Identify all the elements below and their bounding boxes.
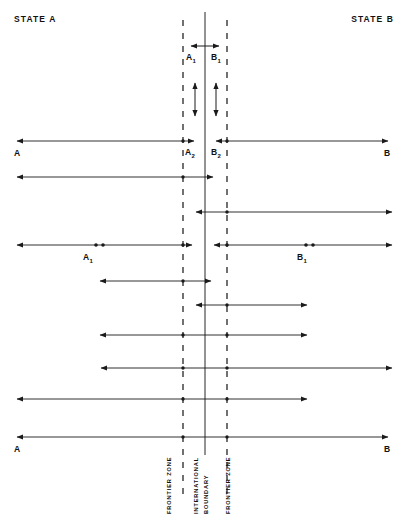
b1-top-label: B1 [211,52,221,64]
b1-row-subscript: 1 [303,258,306,264]
b2-label: B2 [211,147,221,159]
vertical-guide-group [183,12,227,500]
a-endpoint-label-upper: A [14,148,20,158]
a2-label: A2 [185,147,195,159]
a1-row-subscript: 1 [89,258,92,264]
b1-row-label: B1 [297,252,307,264]
b2-subscript: 2 [217,153,220,159]
boundary-label: BOUNDARY [203,475,209,514]
a1-row-label: A1 [83,252,93,264]
state-a-label: STATE A [14,14,56,24]
diagram-canvas [0,0,412,520]
international-label: INTERNATIONAL [193,457,199,514]
a-endpoint-label-lower: A [14,444,20,454]
a1-top-subscript: 1 [192,58,195,64]
b-endpoint-label-upper: B [384,148,390,158]
diagram-root: STATE A STATE B A1 B1 A2 B2 A1 B1 A B A … [0,0,412,520]
b1-top-subscript: 1 [217,58,220,64]
state-b-label: STATE B [351,14,394,24]
b-endpoint-label-lower: B [384,444,390,454]
right-frontier-zone-label: FRONTIER ZONE [225,457,231,514]
a1-top-label: A1 [186,52,196,64]
a2-subscript: 2 [191,153,194,159]
left-frontier-zone-label: FRONTIER ZONE [166,457,172,514]
